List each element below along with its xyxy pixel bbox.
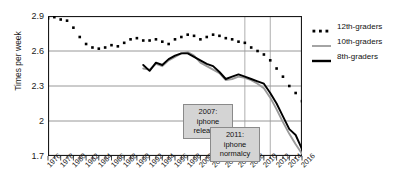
legend-item-2[interactable]: 10th-graders: [311, 35, 395, 48]
legend-dot: [326, 29, 329, 32]
legend-label: 10th-graders: [337, 37, 382, 46]
annotation-iphone-normalcy: 2011: iphone normalcy: [210, 127, 260, 162]
legend-swatch-glyph: [311, 56, 332, 66]
legend-dot: [319, 29, 322, 32]
legend-swatch-icon: [311, 52, 332, 62]
chart-legend: 12th-graders10th-graders8th-graders: [311, 20, 395, 65]
legend-item-3[interactable]: 8th-graders: [311, 50, 395, 63]
legend-item-1[interactable]: 12th-graders: [311, 20, 395, 33]
legend-swatch-icon: [311, 22, 332, 32]
legend-swatch-glyph: [311, 41, 332, 51]
legend-label: 8th-graders: [337, 52, 378, 61]
legend-label: 12th-graders: [337, 22, 382, 31]
legend-swatch-glyph: [311, 26, 332, 36]
chart-figure: Times per week 2.92.62.321.7 19761978198…: [0, 0, 395, 188]
legend-swatch-icon: [311, 37, 332, 47]
legend-dot: [313, 29, 316, 32]
